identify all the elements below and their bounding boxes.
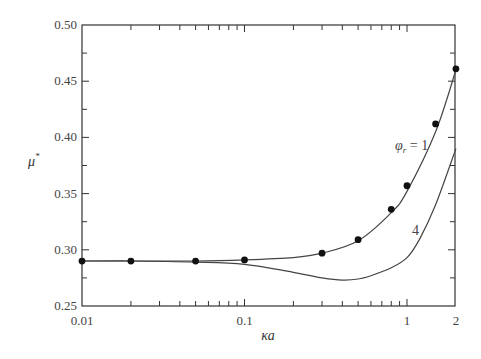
x-tick-label: 2 [453,313,460,328]
y-axis-label-main: μ [27,154,35,169]
data-point [319,250,326,257]
chart: 0.010.1120.250.300.350.400.450.50 κa μ* … [0,0,481,359]
data-point [355,236,362,243]
x-tick-label: 0.1 [236,313,252,328]
annotation-eq: = 1 [406,138,428,153]
data-point [241,257,248,264]
tick-labels: 0.010.1120.250.300.350.400.450.50 [54,17,459,328]
data-markers [79,65,460,264]
annotation-phi-r-1: φr = 1 [395,138,428,155]
data-point [79,258,86,265]
data-point [453,65,460,72]
y-axis-label: μ* [27,151,40,169]
data-point [192,258,199,265]
x-tick-label: 0.01 [71,313,94,328]
data-point [432,121,439,128]
y-axis-label-sup: * [35,151,40,161]
y-tick-label: 0.50 [54,17,77,32]
data-point [404,182,411,189]
x-tick-label: 1 [404,313,411,328]
data-point [388,206,395,213]
y-tick-label: 0.25 [54,298,77,313]
y-tick-label: 0.30 [54,242,77,257]
curves [82,70,456,280]
series-curve [82,149,456,281]
y-tick-label: 0.35 [54,186,77,201]
annotation-4: 4 [412,223,419,238]
series-curve [82,70,456,261]
data-point [128,258,135,265]
x-axis-label: κa [261,328,275,343]
y-tick-label: 0.45 [54,73,77,88]
y-tick-label: 0.40 [54,129,77,144]
